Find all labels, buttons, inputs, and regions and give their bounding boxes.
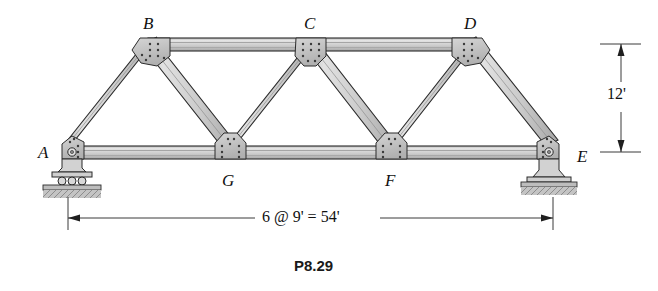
figure-caption: P8.29 [294,258,333,273]
node-label-G: G [222,172,234,189]
node-label-A: A [38,144,48,161]
truss-drawing [0,0,658,291]
member-bottom-chord [66,146,555,159]
node-label-C: C [304,15,315,32]
node-label-D: D [464,15,476,32]
node-label-F: F [385,172,395,189]
node-label-E: E [577,148,587,165]
node-label-B: B [143,15,153,32]
truss-figure: A B C D E F G 6 @ 9' = 54' 12' P8.29 [0,0,658,291]
height-dimension-label: 12' [607,86,626,102]
span-dimension-label: 6 @ 9' = 54' [262,209,340,225]
